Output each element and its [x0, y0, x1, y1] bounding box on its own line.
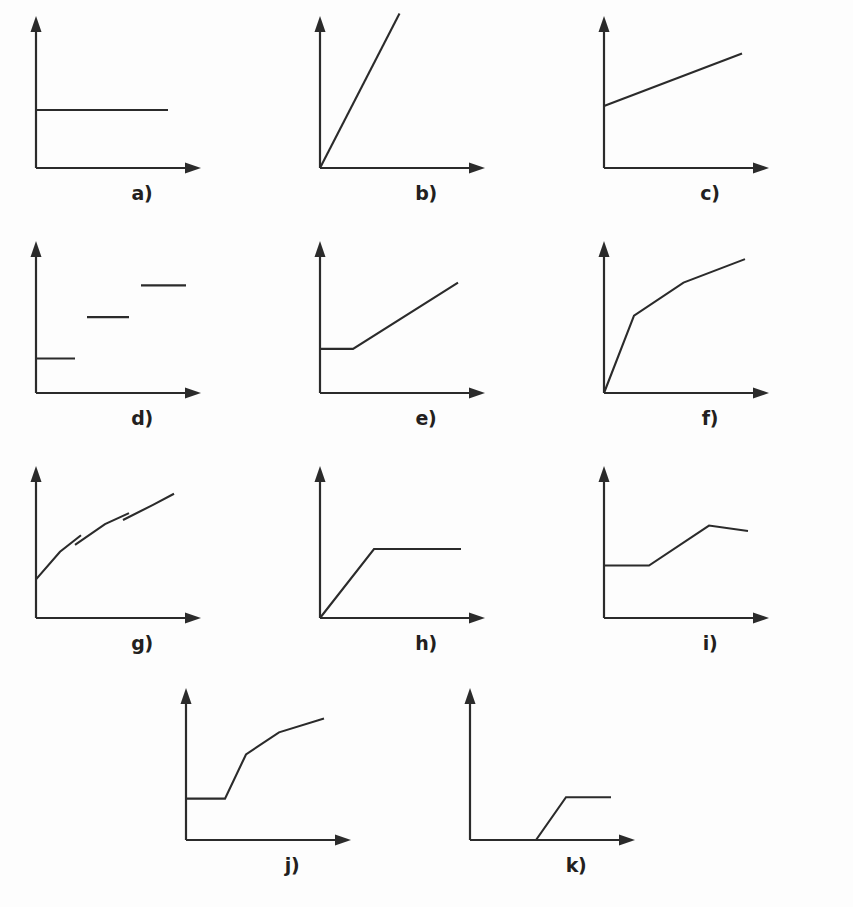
y-axis-arrow-icon: [181, 688, 192, 704]
panel-label: j): [150, 854, 434, 876]
x-axis-arrow-icon: [185, 388, 201, 399]
chart-panel-c: c): [568, 0, 852, 222]
panel-label: b): [284, 182, 568, 204]
x-axis-arrow-icon: [469, 163, 485, 174]
data-curve-segment-1: [604, 259, 745, 393]
x-axis-arrow-icon: [185, 613, 201, 624]
x-axis-arrow-icon: [753, 163, 769, 174]
chart-panel-h: h): [284, 450, 568, 672]
data-curve-segment-1: [36, 535, 81, 579]
y-axis-arrow-icon: [599, 16, 610, 32]
panel-label: a): [0, 182, 284, 204]
chart-panel-f: f): [568, 225, 852, 447]
panel-label: h): [284, 632, 568, 654]
chart-panel-a: a): [0, 0, 284, 222]
x-axis-arrow-icon: [753, 388, 769, 399]
x-axis-arrow-icon: [469, 388, 485, 399]
y-axis-arrow-icon: [315, 466, 326, 482]
panel-label: d): [0, 407, 284, 429]
chart-panel-b: b): [284, 0, 568, 222]
chart-panel-j: j): [150, 672, 434, 894]
data-curve-segment-1: [320, 549, 461, 618]
chart-panel-g: g): [0, 450, 284, 672]
figure-canvas: a)b)c)d)e)f)g)h)i)j)k): [0, 0, 853, 907]
data-curve-segment-1: [320, 13, 400, 168]
data-curve-segment-2: [75, 513, 129, 545]
x-axis-arrow-icon: [469, 613, 485, 624]
x-axis-arrow-icon: [185, 163, 201, 174]
panel-label: f): [568, 407, 852, 429]
panel-label: i): [568, 632, 852, 654]
chart-panel-d: d): [0, 225, 284, 447]
panel-label: c): [568, 182, 852, 204]
y-axis-arrow-icon: [31, 16, 42, 32]
data-curve-segment-1: [604, 53, 742, 105]
y-axis-arrow-icon: [465, 688, 476, 704]
chart-panel-e: e): [284, 225, 568, 447]
panel-label: g): [0, 632, 284, 654]
x-axis-arrow-icon: [335, 835, 351, 846]
y-axis-arrow-icon: [599, 241, 610, 257]
x-axis-arrow-icon: [753, 613, 769, 624]
data-curve-segment-1: [604, 526, 748, 566]
chart-panel-i: i): [568, 450, 852, 672]
y-axis-arrow-icon: [315, 241, 326, 257]
y-axis-arrow-icon: [315, 16, 326, 32]
y-axis-arrow-icon: [599, 466, 610, 482]
data-curve-segment-1: [470, 797, 611, 840]
data-curve-segment-1: [320, 283, 458, 349]
panel-label: k): [434, 854, 718, 876]
data-curve-segment-1: [186, 719, 324, 799]
y-axis-arrow-icon: [31, 241, 42, 257]
data-curve-segment-3: [123, 494, 174, 520]
x-axis-arrow-icon: [619, 835, 635, 846]
y-axis-arrow-icon: [31, 466, 42, 482]
chart-panel-k: k): [434, 672, 718, 894]
panel-label: e): [284, 407, 568, 429]
